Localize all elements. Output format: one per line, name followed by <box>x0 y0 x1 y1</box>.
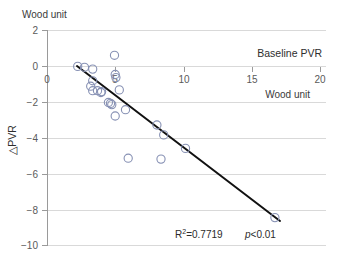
data-point <box>110 51 118 59</box>
x-axis-title: Baseline PVR <box>257 47 322 59</box>
x-tick-label-20: 20 <box>314 74 326 85</box>
x-tick-label-10: 10 <box>178 74 190 85</box>
data-point <box>111 112 119 120</box>
y-tick-label-m2: −2 <box>27 97 39 108</box>
y-tick-label-0: 0 <box>32 61 38 72</box>
chart-canvas: 2 0 −2 −4 −6 −8 −10 0 5 10 15 20 Wood un… <box>0 0 349 268</box>
data-point <box>115 86 123 94</box>
r-squared-annotation: R2=0.7719 <box>175 228 223 240</box>
p-value: <0.01 <box>251 229 277 240</box>
gridlines <box>47 31 326 246</box>
y-tick-label-m8: −8 <box>27 205 39 216</box>
data-point <box>124 154 132 162</box>
data-point <box>157 155 165 163</box>
y-axis-title: △PVR <box>6 125 18 155</box>
y-tick-label-m10: −10 <box>21 240 38 251</box>
scatter-plot-figure: 2 0 −2 −4 −6 −8 −10 0 5 10 15 20 Wood un… <box>0 0 349 268</box>
x-tick-label-15: 15 <box>246 74 258 85</box>
y-tick-label-m6: −6 <box>27 169 39 180</box>
y-axis-ticks <box>42 31 47 246</box>
r-squared-value: =0.7719 <box>186 229 223 240</box>
p-value-annotation: p<0.01 <box>244 229 276 240</box>
y-tick-label-m4: −4 <box>27 133 39 144</box>
r-squared-prefix: R <box>175 229 182 240</box>
regression-line <box>77 66 280 221</box>
y-axis-unit-label: Wood unit <box>22 9 67 20</box>
x-tick-label-0: 0 <box>44 74 50 85</box>
data-point <box>121 106 129 114</box>
y-tick-label-2: 2 <box>32 25 38 36</box>
x-axis-unit-label: Wood unit <box>265 89 310 100</box>
x-tick-label-5: 5 <box>112 74 118 85</box>
